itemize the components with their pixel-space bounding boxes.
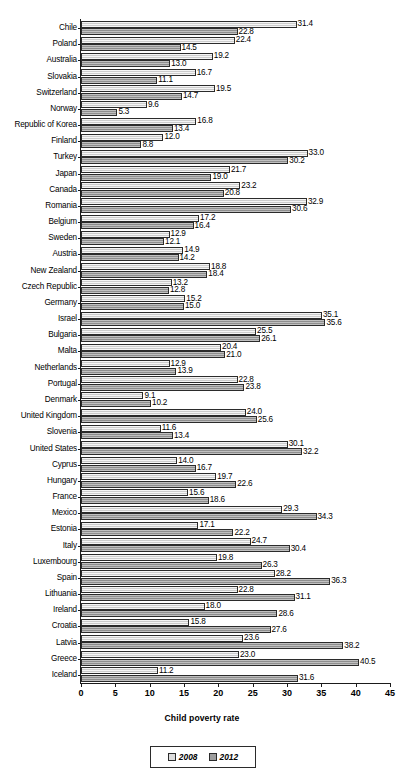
bar-2012: 13.4: [81, 125, 173, 132]
bar-2012: 36.3: [81, 578, 330, 585]
bar-2012: 21.0: [81, 351, 225, 358]
bar-value-label: 26.1: [261, 335, 276, 343]
chart-legend: 2008 2012: [150, 746, 256, 768]
bar-2008: 29.3: [81, 506, 282, 513]
bar-2008: 9.1: [81, 392, 143, 399]
bar-2012: 25.6: [81, 416, 257, 423]
chart-category-row: Iceland11.231.6: [81, 667, 390, 683]
legend-entry-2012: 2012: [209, 753, 239, 761]
bar-value-label: 24.7: [252, 537, 267, 545]
bar-2012: 15.0: [81, 303, 184, 310]
bar-2008: 22.8: [81, 586, 238, 593]
y-axis-category-label: Mexico: [52, 509, 77, 517]
bar-2008: 23.6: [81, 635, 243, 642]
y-axis-category-label: Cyprus: [52, 461, 77, 469]
bar-value-label: 17.1: [199, 521, 214, 529]
y-axis-category-label: Slovakia: [47, 72, 77, 80]
bar-2012: 40.5: [81, 659, 359, 666]
chart-category-row: Japan21.719.0: [81, 166, 390, 182]
bar-value-label: 36.3: [331, 577, 346, 585]
chart-category-row: Israel35.135.6: [81, 311, 390, 327]
x-axis-tick-label: 5: [113, 689, 118, 698]
legend-label-2012: 2012: [220, 753, 239, 761]
bar-value-label: 35.6: [326, 318, 341, 326]
chart-category-row: Austria14.914.2: [81, 246, 390, 262]
bar-2008: 19.2: [81, 53, 213, 60]
chart-category-row: Turkey33.030.2: [81, 149, 390, 165]
bar-value-label: 18.6: [210, 496, 225, 504]
y-axis-category-label: Belgium: [48, 218, 77, 226]
bar-2012: 8.8: [81, 141, 141, 148]
bar-2008: 14.9: [81, 247, 183, 254]
legend-entry-2008: 2008: [168, 753, 198, 761]
bar-value-label: 10.2: [152, 399, 167, 407]
bar-2008: 23.2: [81, 182, 240, 189]
bar-2008: 23.0: [81, 651, 239, 658]
bar-2012: 16.4: [81, 222, 194, 229]
chart-category-row: Canada23.220.8: [81, 182, 390, 198]
bar-2008: 15.8: [81, 619, 189, 626]
bar-value-label: 30.1: [289, 440, 304, 448]
x-axis-tick-label: 0: [78, 689, 83, 698]
x-axis-tick: [287, 683, 288, 687]
bar-value-label: 14.0: [178, 457, 193, 465]
y-axis-category-label: United States: [30, 444, 77, 452]
bar-value-label: 18.0: [206, 602, 221, 610]
bar-2012: 22.6: [81, 481, 236, 488]
chart-category-row: Bulgaria25.526.1: [81, 327, 390, 343]
chart-category-row: United Kingdom24.025.6: [81, 408, 390, 424]
bar-2008: 15.2: [81, 295, 185, 302]
bar-2012: 26.3: [81, 562, 262, 569]
y-axis-category-label: Malta: [58, 347, 77, 355]
bar-2012: 10.2: [81, 400, 151, 407]
x-axis-tick-label: 30: [282, 689, 292, 698]
bar-value-label: 28.2: [276, 570, 291, 578]
bar-2012: 35.6: [81, 319, 325, 326]
bar-value-label: 15.8: [190, 618, 205, 626]
bar-2008: 18.8: [81, 263, 210, 270]
x-axis-tick: [115, 683, 116, 687]
bar-2008: 13.2: [81, 279, 172, 286]
bar-value-label: 13.9: [177, 367, 192, 375]
bar-value-label: 19.8: [218, 554, 233, 562]
bar-2012: 30.2: [81, 157, 288, 164]
y-axis-category-label: Iceland: [52, 671, 77, 679]
y-axis-category-label: Netherlands: [35, 364, 78, 372]
y-axis-category-label: Greece: [51, 655, 77, 663]
x-axis-tick: [150, 683, 151, 687]
chart-category-row: United States30.132.2: [81, 440, 390, 456]
bar-value-label: 23.2: [241, 182, 256, 190]
bar-value-label: 8.8: [142, 141, 153, 149]
y-axis-category-label: New Zealand: [30, 267, 77, 275]
bar-value-label: 34.3: [318, 513, 333, 521]
y-axis-category-label: Italy: [63, 541, 77, 549]
bar-2012: 30.6: [81, 206, 291, 213]
bar-value-label: 21.0: [226, 351, 241, 359]
chart-category-row: Italy24.730.4: [81, 537, 390, 553]
bar-2008: 14.0: [81, 457, 177, 464]
y-axis-category-label: Hungary: [47, 477, 77, 485]
bar-value-label: 21.7: [231, 165, 246, 173]
bar-value-label: 31.1: [296, 593, 311, 601]
bar-value-label: 32.2: [303, 448, 318, 456]
y-axis-category-label: Norway: [50, 105, 77, 113]
x-axis-tick-label: 35: [316, 689, 326, 698]
bar-2012: 23.8: [81, 384, 244, 391]
bar-2012: 19.0: [81, 174, 211, 181]
y-axis-category-label: Turkey: [53, 153, 77, 161]
x-axis-tick: [356, 683, 357, 687]
y-axis-category-label: Croatia: [52, 622, 77, 630]
bar-2012: 31.1: [81, 594, 295, 601]
chart-category-row: Finland12.08.8: [81, 133, 390, 149]
bar-value-label: 19.0: [212, 173, 227, 181]
bar-2012: 14.7: [81, 93, 182, 100]
bar-value-label: 30.4: [291, 545, 306, 553]
bar-value-label: 30.6: [292, 205, 307, 213]
chart-category-row: Luxembourg19.826.3: [81, 554, 390, 570]
bar-2008: 16.7: [81, 69, 196, 76]
x-axis-tick: [321, 683, 322, 687]
bar-2008: 22.4: [81, 37, 235, 44]
bar-2012: 12.1: [81, 238, 164, 245]
chart-category-row: Norway9.65.3: [81, 101, 390, 117]
chart-category-row: Belgium17.216.4: [81, 214, 390, 230]
